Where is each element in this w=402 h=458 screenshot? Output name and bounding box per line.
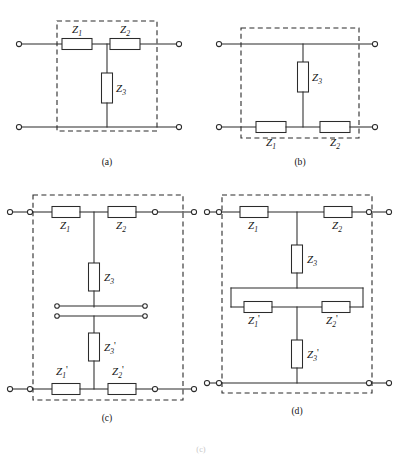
panel-d-impedance-z1-body (240, 207, 268, 218)
panel-c-label-z2: Z2 (116, 219, 126, 234)
panel-b-terminal-top-left (216, 41, 221, 46)
panel-d-impedance-z3p-body (292, 340, 303, 368)
panel-a-impedance-z1-body (62, 39, 92, 50)
circuit-diagram-canvas: Z1 Z2 Z3 (a) Z3 (0, 0, 402, 458)
panel-d-impedance-z3-body (292, 245, 303, 273)
panel-d-label-z2: Z2 (332, 219, 342, 234)
figure-root: Z1 Z2 Z3 (a) Z3 (0, 0, 402, 458)
figure-bottom-caption: (c) (196, 445, 206, 454)
panel-c-terminal-bottom-far-left (7, 386, 12, 391)
panel-c-impedance-z1-body (52, 207, 80, 218)
panel-c-impedance-z1p-body (52, 384, 80, 395)
panel-d-terminal-bottom-inner-left (216, 380, 221, 385)
panel-b-impedance-z2-body (320, 122, 350, 133)
panel-d-label-z1p: Z1' (248, 313, 260, 329)
panel-b-label-z3: Z3 (312, 71, 322, 86)
panel-c-break-terminal-upper-right (143, 304, 148, 309)
panel-c-impedance-z3-body (89, 263, 100, 291)
panel-d: Z1 Z2 Z3 Z1' Z2' Z3' (d) (204, 195, 391, 417)
panel-b: Z3 Z1 Z2 (b) (216, 28, 377, 168)
panel-a-impedance-z2-body (110, 39, 140, 50)
panel-c-break-terminal-lower-right (143, 314, 148, 319)
panel-d-terminal-bottom-far-right (386, 380, 391, 385)
panel-a-terminal-top-right (176, 41, 181, 46)
panel-d-caption: (d) (291, 405, 302, 417)
panel-c-impedance-z3p-body (89, 333, 100, 361)
panel-c-terminal-bottom-inner-right (152, 386, 157, 391)
panel-b-impedance-z3-body (298, 62, 309, 92)
panel-d-impedance-z2p-body (322, 302, 350, 313)
panel-a-label-z2: Z2 (120, 23, 130, 38)
panel-c-terminal-bottom-far-right (191, 386, 196, 391)
panel-c: Z1 Z2 Z3 Z3' Z1' Z2' (c) (7, 195, 196, 424)
panel-d-terminal-top-inner-left (216, 209, 221, 214)
panel-c-label-z2p: Z2' (112, 364, 124, 380)
panel-c-impedance-z2-body (108, 207, 136, 218)
panel-c-terminal-top-inner-right (152, 209, 157, 214)
panel-a-caption: (a) (102, 156, 113, 168)
panel-b-terminal-top-right (372, 41, 377, 46)
panel-c-terminal-top-far-left (7, 209, 12, 214)
panel-c-impedance-z2p-body (108, 384, 136, 395)
panel-d-impedance-z1p-body (244, 302, 272, 313)
panel-c-terminal-top-inner-left (27, 209, 32, 214)
panel-b-terminal-bottom-left (216, 124, 221, 129)
panel-d-label-z3: Z3 (307, 253, 317, 268)
panel-a-label-z3: Z3 (116, 82, 126, 97)
panel-d-terminal-top-inner-right (366, 209, 371, 214)
panel-a-terminal-top-left (16, 41, 21, 46)
panel-b-impedance-z1-body (256, 122, 286, 133)
panel-c-label-z3p: Z3' (104, 340, 116, 356)
panel-d-label-z1: Z1 (248, 219, 258, 234)
panel-d-terminal-bottom-far-left (204, 380, 209, 385)
panel-d-label-z2p: Z2' (326, 313, 338, 329)
panel-a-label-z1: Z1 (72, 23, 82, 38)
panel-a-terminal-bottom-left (16, 124, 21, 129)
panel-d-label-z3p: Z3' (307, 347, 319, 363)
panel-b-caption: (b) (294, 156, 305, 168)
panel-c-terminal-bottom-inner-left (27, 386, 32, 391)
panel-c-caption: (c) (102, 412, 113, 424)
panel-c-label-z1p: Z1' (56, 364, 68, 380)
panel-c-break-terminal-lower-left (55, 314, 60, 319)
panel-c-terminal-top-far-right (191, 209, 196, 214)
panel-a: Z1 Z2 Z3 (a) (16, 21, 181, 168)
panel-d-terminal-bottom-inner-right (366, 380, 371, 385)
panel-c-label-z3: Z3 (104, 271, 114, 286)
panel-d-impedance-z2-body (324, 207, 352, 218)
panel-c-break-terminal-upper-left (55, 304, 60, 309)
panel-b-terminal-bottom-right (372, 124, 377, 129)
panel-a-terminal-bottom-right (176, 124, 181, 129)
panel-a-impedance-z3-body (102, 73, 113, 103)
panel-d-terminal-top-far-right (386, 209, 391, 214)
panel-d-terminal-top-far-left (204, 209, 209, 214)
panel-c-label-z1: Z1 (60, 219, 70, 234)
